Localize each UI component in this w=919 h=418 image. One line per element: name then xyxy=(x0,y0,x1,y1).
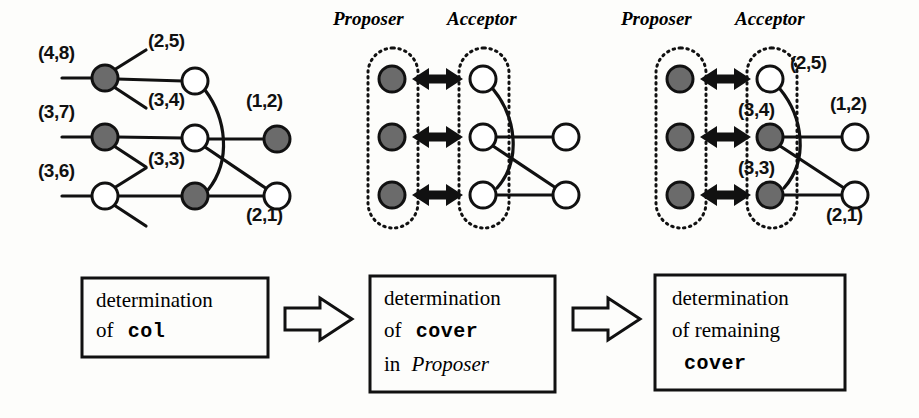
flow-box-2-line-3-italic: Proposer xyxy=(412,352,489,376)
node-3-6[interactable] xyxy=(92,183,118,209)
edge-stub-n48-up xyxy=(114,50,146,70)
edge-n37-n34 xyxy=(117,137,183,138)
label-node-2-5-right: (2,5) xyxy=(790,52,827,74)
node-3-3[interactable] xyxy=(182,183,208,209)
node-outer-3-middle[interactable] xyxy=(553,182,579,208)
label-node-3-3: (3,3) xyxy=(148,148,185,170)
middle-panel-arrows xyxy=(412,68,463,206)
header-proposer-right: Proposer xyxy=(621,8,692,30)
node-acceptor-3-middle[interactable] xyxy=(470,182,496,208)
label-node-2-5: (2,5) xyxy=(148,30,185,52)
node-3-4[interactable] xyxy=(182,125,208,151)
flow-box-3-line-1: determination xyxy=(672,288,789,309)
node-4-8[interactable] xyxy=(92,65,118,91)
node-proposer-3-middle[interactable] xyxy=(379,182,405,208)
node-proposer-2-middle[interactable] xyxy=(379,124,405,150)
node-outer-1-2-right[interactable] xyxy=(842,124,868,150)
flow-box-1-line-2-plain: of xyxy=(96,318,114,342)
node-outer-2-middle[interactable] xyxy=(553,124,579,150)
match-arrow-row1-right[interactable] xyxy=(700,68,751,90)
label-node-2-1-right: (2,1) xyxy=(826,204,863,226)
header-acceptor-middle: Acceptor xyxy=(447,8,517,30)
node-acceptor-3-4-right[interactable] xyxy=(757,124,783,150)
flow-box-3-line-2: of remaining xyxy=(672,320,780,341)
label-node-2-1: (2,1) xyxy=(246,204,283,226)
flow-box-1-line-2-code: col xyxy=(128,320,166,343)
node-proposer-1-right[interactable] xyxy=(667,66,693,92)
match-arrow-row2-right[interactable] xyxy=(700,126,751,148)
flow-box-3-line-3-code: cover xyxy=(684,354,747,374)
node-proposer-3-right[interactable] xyxy=(667,182,693,208)
label-node-1-2-right: (1,2) xyxy=(830,93,867,115)
label-node-3-4: (3,4) xyxy=(148,89,185,111)
edge-stub-n36-up xyxy=(114,168,146,188)
middle-panel-edges xyxy=(493,89,556,195)
flow-arrow-2[interactable] xyxy=(573,298,640,340)
figure-canvas: (4,8) (2,5) (3,7) (3,4) (1,2) (3,6) (3,3… xyxy=(0,0,919,418)
flow-arrow-1[interactable] xyxy=(285,298,352,340)
node-acceptor-1-middle[interactable] xyxy=(470,66,496,92)
node-acceptor-3-3-right[interactable] xyxy=(757,182,783,208)
edge-stub-n48-down xyxy=(114,87,146,108)
flow-box-2-line-2: of cover xyxy=(384,320,478,342)
flow-box-2-line-1: determination xyxy=(384,288,501,309)
flow-box-2-line-3-plain: in xyxy=(384,352,400,376)
right-panel-arrows xyxy=(700,68,751,206)
node-3-7[interactable] xyxy=(92,124,118,150)
header-acceptor-right: Acceptor xyxy=(735,8,805,30)
label-node-3-3-right: (3,3) xyxy=(738,157,775,179)
flow-box-1-line-1: determination xyxy=(96,290,213,311)
node-2-5[interactable] xyxy=(182,68,208,94)
match-arrow-row2-middle[interactable] xyxy=(412,126,463,148)
edge-n48-n25 xyxy=(117,79,183,81)
edge-stub-n36-down xyxy=(114,205,146,226)
header-proposer-middle: Proposer xyxy=(333,8,404,30)
flow-box-2-line-3: in Proposer xyxy=(384,354,489,375)
edge-stub-n37-down xyxy=(114,146,146,167)
flow-box-2-line-2-code: cover xyxy=(416,320,479,343)
label-node-3-4-right: (3,4) xyxy=(738,99,775,121)
label-node-1-2: (1,2) xyxy=(246,90,283,112)
node-1-2[interactable] xyxy=(264,126,290,152)
match-arrow-row3-middle[interactable] xyxy=(412,184,463,206)
node-proposer-1-middle[interactable] xyxy=(379,66,405,92)
match-arrow-row3-right[interactable] xyxy=(700,184,751,206)
node-proposer-2-right[interactable] xyxy=(667,124,693,150)
label-node-3-7: (3,7) xyxy=(38,101,75,123)
node-acceptor-2-5-right[interactable] xyxy=(757,66,783,92)
flow-box-1-line-2: of col xyxy=(96,320,165,342)
node-acceptor-2-middle[interactable] xyxy=(470,124,496,150)
match-arrow-row1-middle[interactable] xyxy=(412,68,463,90)
label-node-3-6: (3,6) xyxy=(38,160,75,182)
flow-box-2-line-2-plain: of xyxy=(384,318,402,342)
label-node-4-8: (4,8) xyxy=(38,42,75,64)
